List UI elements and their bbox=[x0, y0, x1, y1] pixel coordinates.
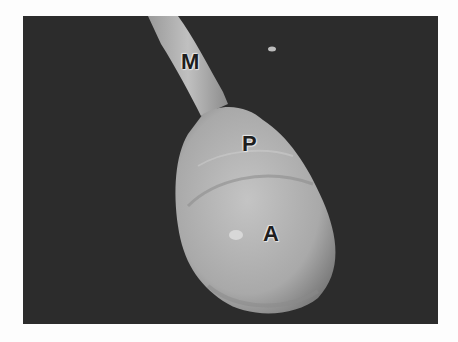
specimen-illustration bbox=[23, 16, 438, 324]
label-midpiece: M bbox=[181, 49, 199, 75]
label-postacrosomal: P bbox=[242, 131, 257, 157]
micrograph bbox=[23, 16, 438, 324]
label-acrosome: A bbox=[263, 221, 279, 247]
